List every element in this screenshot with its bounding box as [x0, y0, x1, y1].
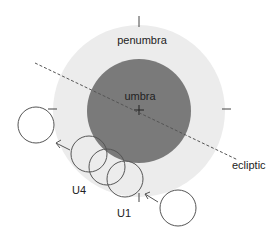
u4-label: U4: [72, 184, 86, 196]
umbra-label: umbra: [124, 90, 156, 102]
ecliptic-label: ecliptic: [232, 159, 266, 171]
eclipse-diagram: penumbra umbra ecliptic U4 U1: [0, 0, 279, 242]
penumbra-label: penumbra: [117, 34, 167, 46]
moon-exit: [18, 107, 54, 143]
u1-label: U1: [117, 207, 131, 219]
moon-entry: [160, 190, 196, 226]
